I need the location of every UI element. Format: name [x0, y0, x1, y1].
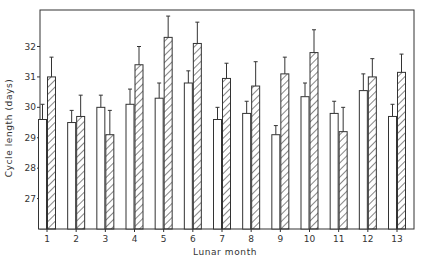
- x-tick-label: 8: [248, 234, 254, 244]
- y-tick-label: 28: [25, 163, 37, 173]
- bar-open: [155, 98, 163, 229]
- bar-hatched: [193, 43, 201, 229]
- x-axis-ticks: 12345678910111213: [44, 229, 403, 244]
- bar-open: [68, 123, 76, 229]
- x-tick-label: 9: [277, 234, 283, 244]
- bar-hatched: [77, 116, 85, 229]
- bar-open: [330, 113, 338, 229]
- bar-open: [184, 83, 192, 229]
- bar-open: [39, 120, 47, 230]
- x-tick-label: 6: [190, 234, 196, 244]
- x-tick-label: 3: [102, 234, 108, 244]
- y-tick-label: 30: [25, 102, 37, 112]
- x-tick-label: 5: [161, 234, 167, 244]
- bar-hatched: [135, 65, 143, 229]
- x-tick-label: 13: [391, 234, 402, 244]
- y-axis-title: Cycle length (days): [4, 79, 14, 178]
- y-tick-label: 31: [25, 72, 36, 82]
- bars: [39, 16, 406, 229]
- y-axis-ticks: 272829303132: [25, 42, 40, 204]
- bar-hatched: [310, 53, 318, 229]
- bar-open: [389, 116, 397, 229]
- bar-open: [214, 120, 222, 230]
- bar-open: [97, 107, 105, 229]
- bar-hatched: [48, 77, 56, 229]
- bar-hatched: [368, 77, 376, 229]
- bar-open: [359, 91, 367, 229]
- bar-hatched: [339, 132, 347, 229]
- bar-hatched: [164, 37, 172, 229]
- y-tick-label: 29: [25, 133, 37, 143]
- bar-hatched: [398, 72, 406, 229]
- bar-hatched: [223, 78, 231, 229]
- bar-open: [243, 113, 251, 229]
- x-tick-label: 11: [333, 234, 344, 244]
- bar-hatched: [106, 135, 114, 229]
- bar-open: [126, 104, 134, 229]
- y-tick-label: 27: [25, 194, 36, 204]
- x-tick-label: 4: [132, 234, 138, 244]
- bar-chart: 272829303132 12345678910111213 Lunar mon…: [0, 0, 424, 265]
- x-axis-title: Lunar month: [193, 247, 257, 257]
- bar-open: [272, 135, 280, 229]
- bar-hatched: [281, 74, 289, 229]
- bar-open: [301, 97, 309, 229]
- x-tick-label: 12: [362, 234, 373, 244]
- x-tick-label: 10: [304, 234, 316, 244]
- bar-hatched: [252, 86, 260, 229]
- y-tick-label: 32: [25, 42, 36, 52]
- x-tick-label: 1: [44, 234, 50, 244]
- x-tick-label: 7: [219, 234, 225, 244]
- x-tick-label: 2: [73, 234, 79, 244]
